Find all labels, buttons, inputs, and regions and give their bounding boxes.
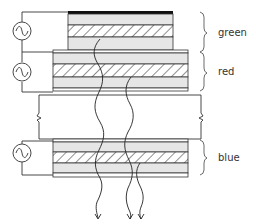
ac-source-blue [13,144,31,162]
red-phosphor-layer [53,64,188,77]
red-top-electrode [53,50,188,53]
braces [200,12,207,175]
blue-stack [53,139,188,177]
substrate [37,95,203,139]
brace-green [200,12,207,52]
ac-source-red [13,63,31,81]
green-insulator-top [68,14,173,25]
ac-source-green [13,22,31,40]
substrate-outline [37,95,203,139]
red-insulator-top [53,53,188,64]
label-red: red [218,66,234,77]
el-device-diagram: green red blue [0,0,256,224]
arrow-head-icon [138,214,144,219]
green-phosphor-layer [68,25,173,37]
blue-top-electrode [53,139,188,142]
wire-red-bottom [22,82,53,92]
green-insulator-bottom [68,37,173,50]
label-blue: blue [218,152,240,163]
blue-insulator-bottom [53,163,188,173]
label-green: green [218,27,247,38]
red-stack [53,50,188,91]
arrow-head-icon [127,214,133,219]
red-bottom-electrode [53,88,188,91]
wire-blue-bottom [22,162,53,175]
brace-red [200,52,207,91]
green-top-electrode [68,11,173,14]
blue-phosphor-layer [53,152,188,163]
red-insulator-bottom [53,77,188,88]
brace-blue [200,140,207,175]
wire-blue-top [22,141,53,144]
blue-bottom-electrode [53,173,188,177]
wire-green-top [22,12,68,22]
blue-insulator-top [53,142,188,152]
green-stack [68,11,173,50]
